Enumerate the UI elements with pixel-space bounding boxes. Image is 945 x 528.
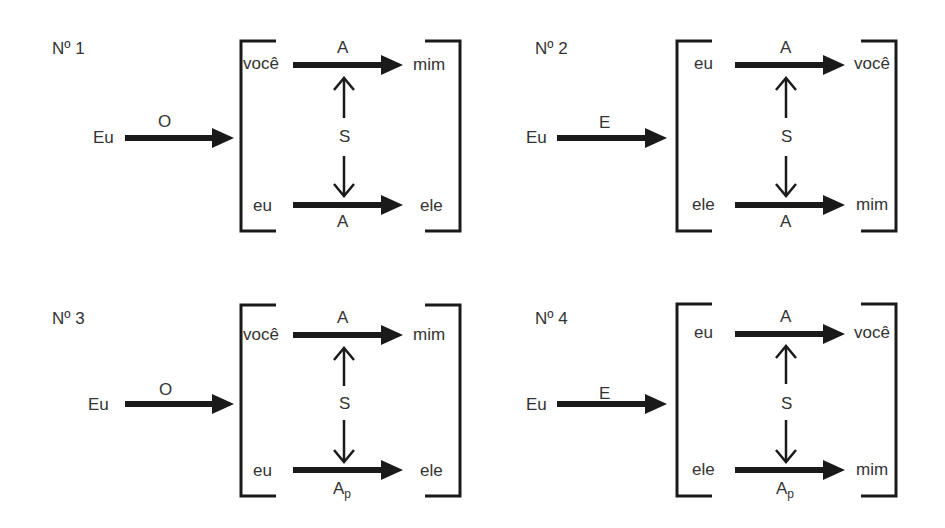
top-arrow-label: A [780, 308, 791, 326]
bottom-arrow-label: A [780, 213, 791, 236]
input-arrow [125, 394, 234, 414]
panel-number: Nº 2 [535, 40, 568, 58]
panel-number: Nº 3 [52, 310, 85, 328]
bottom-arrow-label-sub: p [344, 487, 351, 501]
input-arrow-label: O [158, 113, 171, 131]
middle-label: S [781, 128, 792, 146]
input-arrow [125, 128, 234, 148]
bottom-left-label: ele [692, 461, 715, 479]
bottom-right-label: ele [420, 462, 443, 480]
up-arrow [334, 348, 354, 386]
panel-number: Nº 1 [52, 40, 85, 58]
subject-label: Eu [93, 129, 114, 147]
bottom-arrow [293, 460, 403, 480]
input-arrow [557, 394, 667, 414]
top-right-label: você [854, 324, 890, 342]
bottom-arrow-label-sub: p [787, 487, 794, 501]
bottom-right-label: mim [856, 196, 888, 214]
bottom-arrow-label-main: A [776, 479, 787, 498]
input-arrow-label: E [599, 114, 610, 132]
bottom-arrow-label: Ap [776, 480, 794, 503]
bottom-arrow-label: A [337, 213, 348, 236]
input-arrow-label: O [159, 381, 172, 399]
bottom-arrow-label-main: A [333, 479, 344, 498]
top-arrow-label: A [337, 39, 348, 57]
top-left-label: você [243, 326, 279, 344]
top-right-label: você [854, 55, 890, 73]
top-left-label: você [243, 55, 279, 73]
middle-label: S [339, 395, 350, 413]
down-arrow [776, 420, 796, 462]
diagram-panel-2: Nº 2 Eu E eu A você S ele A mim [472, 0, 944, 264]
top-arrow-label: A [780, 39, 791, 57]
panel-3-arrows [0, 264, 472, 528]
input-arrow-label: E [599, 385, 610, 403]
top-left-label: eu [694, 324, 713, 342]
top-arrow [735, 55, 845, 75]
bottom-arrow-label: Ap [333, 480, 351, 503]
up-arrow [334, 78, 354, 118]
top-arrow [735, 324, 845, 344]
subject-label: Eu [526, 396, 547, 414]
diagram-panel-1: Nº 1 Eu O você A mim S eu A ele [0, 0, 472, 264]
down-arrow [334, 156, 354, 196]
diagram-panel-3: Nº 3 Eu O você A mim S eu Ap ele [0, 264, 472, 528]
diagram-panel-4: Nº 4 Eu E eu A você S ele Ap mim [472, 264, 944, 528]
bottom-right-label: mim [856, 461, 888, 479]
subject-label: Eu [526, 129, 547, 147]
middle-label: S [781, 395, 792, 413]
bottom-left-label: ele [692, 196, 715, 214]
subject-label: Eu [88, 396, 109, 414]
top-left-label: eu [694, 55, 713, 73]
input-arrow [557, 128, 667, 148]
middle-label: S [339, 128, 350, 146]
down-arrow [776, 156, 796, 196]
up-arrow [776, 78, 796, 118]
bottom-right-label: ele [420, 197, 443, 215]
bottom-left-label: eu [253, 197, 272, 215]
top-arrow [293, 55, 403, 75]
top-right-label: mim [413, 56, 445, 74]
bottom-arrow [735, 460, 845, 480]
top-right-label: mim [413, 326, 445, 344]
bottom-left-label: eu [253, 462, 272, 480]
down-arrow [334, 420, 354, 462]
bottom-arrow-label-main: A [337, 212, 348, 231]
up-arrow [776, 346, 796, 384]
panel-number: Nº 4 [535, 310, 568, 328]
bottom-arrow-label-main: A [780, 212, 791, 231]
top-arrow [293, 325, 403, 345]
top-arrow-label: A [337, 309, 348, 327]
